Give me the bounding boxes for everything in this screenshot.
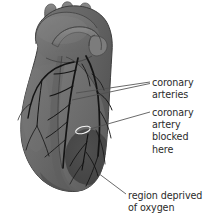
label-coronary-artery-blocked-here: coronary artery blocked here — [152, 107, 194, 156]
heart-diagram-figure: coronary arteries coronary artery blocke… — [0, 0, 205, 222]
label-coronary-arteries: coronary arteries — [152, 77, 194, 101]
label-region-deprived-of-oxygen: region deprived of oxygen — [128, 190, 202, 214]
leader-region-deprived — [98, 173, 126, 194]
